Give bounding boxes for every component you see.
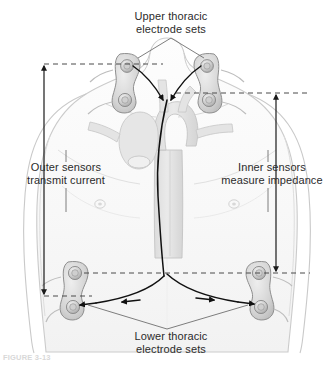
right-nipple-center [232,202,236,205]
electrode-contact-upper-right-inner [206,97,213,104]
electrode-contact-lower-right-outer [258,304,265,311]
aortic-root-opening [128,156,150,168]
electrode-contact-lower-left-inner [72,270,79,277]
electrode-contact-upper-right-outer [204,63,210,69]
bioimpedance-figure: Upper thoracic electrode sets Lower thor… [0,0,334,367]
electrode-contact-upper-left-inner [122,97,129,104]
electrode-contact-lower-left-outer [70,304,77,311]
outer-sensors-label: Outer sensors transmit current [8,161,124,186]
lower-electrodes-label: Lower thoracic electrode sets [107,330,235,355]
electrode-lead-upper-left-outer [90,70,113,82]
left-nipple-center [98,202,102,205]
figure-caption: FIGURE 3-13 [3,353,51,362]
upper-electrodes-label: Upper thoracic electrode sets [107,10,235,35]
inner-sensors-label: Inner sensors measure impedance [212,161,332,186]
electrode-lead-upper-right-outer [221,70,244,82]
